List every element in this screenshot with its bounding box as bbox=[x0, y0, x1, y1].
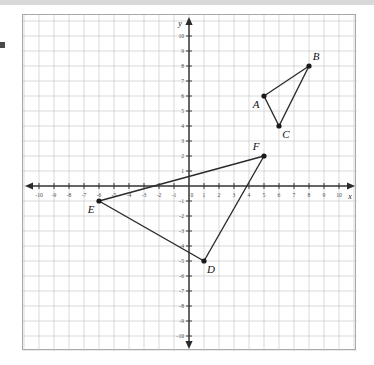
y-axis-tick-label: -2 bbox=[179, 213, 184, 219]
x-axis-tick-label: 7 bbox=[293, 192, 296, 198]
y-axis-tick-label: 1 bbox=[181, 168, 184, 174]
y-axis-tick-label: -6 bbox=[179, 273, 184, 279]
y-axis-tick-label: -3 bbox=[179, 228, 184, 234]
vertex-point bbox=[261, 153, 266, 158]
x-axis-tick-label: 4 bbox=[248, 192, 251, 198]
x-axis-tick-label: 6 bbox=[278, 192, 281, 198]
left-edge-mark bbox=[0, 42, 5, 48]
x-axis-tick-label: 8 bbox=[308, 192, 311, 198]
x-axis-tick-label: 1 bbox=[203, 192, 206, 198]
triangle-abc: ABC bbox=[252, 50, 320, 140]
origin-label: 0 bbox=[191, 192, 194, 198]
vertex-point bbox=[306, 63, 311, 68]
y-axis-tick-label: 7 bbox=[181, 78, 184, 84]
x-axis-tick-label: -7 bbox=[82, 192, 87, 198]
y-axis-tick-label: -10 bbox=[177, 333, 185, 339]
y-axis-arrow-down bbox=[185, 341, 192, 349]
vertex-point bbox=[276, 123, 281, 128]
x-axis-tick-label: -8 bbox=[67, 192, 72, 198]
x-axis-tick-label: 10 bbox=[336, 192, 342, 198]
x-axis-tick-label: -3 bbox=[142, 192, 147, 198]
x-axis-label: x bbox=[347, 192, 352, 201]
x-axis-arrow-left bbox=[25, 182, 33, 189]
x-axis-tick-label: -1 bbox=[172, 192, 177, 198]
vertex-label: B bbox=[313, 50, 320, 62]
x-axis-tick-label: -2 bbox=[157, 192, 162, 198]
y-axis-tick-label: 8 bbox=[181, 63, 184, 69]
y-axis-tick-label: -5 bbox=[179, 258, 184, 264]
y-axis-tick-label: 2 bbox=[181, 153, 184, 159]
coordinate-plane: -10-9-8-7-6-5-4-3-2-112345678910-10-9-8-… bbox=[22, 14, 356, 350]
x-axis-tick-label: 5 bbox=[263, 192, 266, 198]
y-axis-tick-label: 4 bbox=[181, 123, 184, 129]
vertex-label: D bbox=[206, 263, 215, 275]
y-axis-tick-label: -1 bbox=[179, 198, 184, 204]
triangle-side bbox=[99, 156, 264, 201]
vertex-label: C bbox=[282, 128, 290, 140]
top-band bbox=[0, 0, 374, 5]
vertex-label: E bbox=[87, 203, 95, 215]
y-axis-tick-label: 10 bbox=[178, 33, 184, 39]
triangle-def: DEF bbox=[87, 140, 267, 275]
x-axis-tick-label: -6 bbox=[97, 192, 102, 198]
y-axis-tick-label: 9 bbox=[181, 48, 184, 54]
graph-canvas: -10-9-8-7-6-5-4-3-2-112345678910-10-9-8-… bbox=[23, 15, 357, 351]
x-axis-tick-label: -10 bbox=[35, 192, 43, 198]
x-axis-tick-label: 9 bbox=[323, 192, 326, 198]
vertex-label: F bbox=[252, 140, 260, 152]
y-axis-tick-label: 5 bbox=[181, 108, 184, 114]
vertex-point bbox=[96, 198, 101, 203]
y-axis-tick-label: -8 bbox=[179, 303, 184, 309]
y-axis-tick-label: -7 bbox=[179, 288, 184, 294]
vertex-label: A bbox=[252, 98, 260, 110]
vertex-point bbox=[261, 93, 266, 98]
y-axis-label: y bbox=[177, 19, 182, 28]
y-axis-tick-label: 3 bbox=[181, 138, 184, 144]
y-axis-tick-label: -9 bbox=[179, 318, 184, 324]
x-axis-tick-label: 3 bbox=[233, 192, 236, 198]
vertex-point bbox=[201, 258, 206, 263]
y-axis-tick-label: 6 bbox=[181, 93, 184, 99]
x-axis-tick-label: -9 bbox=[52, 192, 57, 198]
x-axis-tick-label: 2 bbox=[218, 192, 221, 198]
